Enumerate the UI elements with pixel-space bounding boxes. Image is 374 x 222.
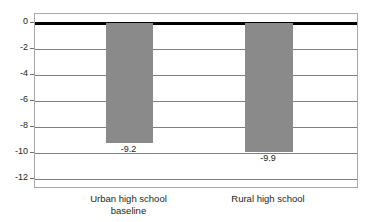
- gridline: [35, 49, 357, 50]
- gridline: [35, 75, 357, 76]
- y-axis-tick-label: -2: [2, 43, 28, 52]
- y-axis-tick-label: -6: [2, 95, 28, 104]
- x-axis-category-label: Rural high school: [196, 193, 340, 205]
- y-axis-tick-label: -12: [2, 173, 28, 182]
- x-axis-category-label: Urban high school baseline: [57, 193, 200, 217]
- y-axis-tick-label: 0: [2, 17, 28, 26]
- plot-area: [34, 13, 358, 188]
- bar: [106, 23, 153, 143]
- gridline: [35, 127, 357, 128]
- y-axis-tick-label: -8: [2, 121, 28, 130]
- y-axis-tick-label: -4: [2, 69, 28, 78]
- bar-value-label: -9.2: [95, 144, 162, 154]
- gridline: [35, 179, 357, 180]
- bar: [245, 23, 293, 152]
- y-axis-tick-label: -10: [2, 147, 28, 156]
- gridline: [35, 101, 357, 102]
- bar-value-label: -9.9: [234, 153, 302, 163]
- bar-chart: 0-2-4-6-8-10-12 -9.2-9.9 Urban high scho…: [0, 0, 374, 222]
- zero-line: [35, 22, 357, 25]
- gridline: [35, 153, 357, 154]
